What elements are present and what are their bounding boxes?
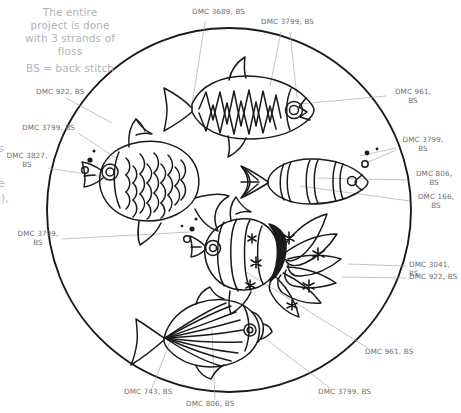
fish-scaled	[82, 119, 229, 245]
label-bottom-743: DMC 743, BS	[124, 388, 172, 397]
legend-note: BS = back stitch	[6, 62, 134, 75]
label-top-left-922: DMC 922, BS	[36, 88, 84, 97]
edge-fragment-e: e	[0, 177, 12, 190]
label-top-3799: DMC 3799, BS	[261, 18, 314, 27]
label-right-3799: DMC 3799, BS	[397, 136, 449, 153]
bubbles-striped-fish	[362, 148, 379, 168]
fish-rayed	[131, 287, 272, 379]
label-left-3827: DMC 3827, BS	[4, 152, 50, 169]
label-right-166: DMC 166, BS	[411, 193, 461, 210]
fish-zigzag	[164, 57, 314, 157]
label-bottom-3799: DMC 3799, BS	[318, 388, 371, 397]
fish-striped	[241, 159, 368, 204]
pattern-diagram-canvas: The entire project is done with 3 strand…	[0, 0, 461, 413]
edge-fragment-s: s	[0, 142, 10, 155]
label-bottom-806: DMC 806, BS	[186, 400, 234, 409]
label-top-3689: DMC 3689, BS	[192, 8, 245, 17]
hoop-circle	[47, 28, 411, 392]
edge-fragment-e2: e),	[0, 192, 12, 205]
intro-note: The entire project is done with 3 strand…	[6, 6, 134, 58]
label-right-961-lower: DMC 961, BS	[365, 348, 413, 357]
label-left-3799-lower: DMC 3799, BS	[13, 230, 63, 247]
label-right-961: DMC 961, BS	[388, 88, 438, 105]
label-left-3799-upper: DMC 3799, BS	[22, 124, 75, 133]
label-right-806: DMC 806, BS	[409, 170, 459, 187]
label-right-922: DMC 922, BS	[409, 273, 457, 282]
